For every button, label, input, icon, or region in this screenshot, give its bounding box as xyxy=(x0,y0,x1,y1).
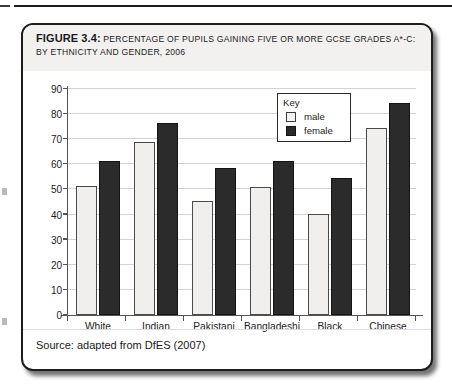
legend-swatch-male xyxy=(286,112,296,122)
bar-group: Pakistani xyxy=(192,89,236,315)
y-tick-label: 80 xyxy=(51,109,62,120)
x-tick-mark xyxy=(241,315,242,321)
legend-swatch-female xyxy=(286,126,296,136)
figure-box: FIGURE 3.4: Percentage of pupils gaining… xyxy=(21,23,433,371)
y-tick-label: 20 xyxy=(51,259,62,270)
chart-legend: Key malefemale xyxy=(277,93,351,142)
legend-item-female: female xyxy=(283,125,345,136)
bar-female-bangladeshi xyxy=(273,161,294,315)
x-tick-label: White xyxy=(85,321,111,332)
x-tick-mark xyxy=(299,315,300,321)
gridline xyxy=(68,88,416,89)
y-tick-mark xyxy=(63,163,68,164)
y-tick-mark xyxy=(63,188,68,189)
y-tick-mark xyxy=(63,238,68,239)
y-tick-mark xyxy=(63,264,68,265)
legend-label-female: female xyxy=(304,125,333,136)
y-tick-label: 90 xyxy=(51,84,62,95)
bar-group: Indian xyxy=(134,89,178,315)
x-tick-label: Chinese xyxy=(369,321,406,332)
x-tick-label: Indian xyxy=(142,321,170,332)
figure-number-label: FIGURE 3.4: xyxy=(36,32,101,44)
x-tick-label: Bangladeshi xyxy=(244,321,300,332)
legend-label-male: male xyxy=(304,111,325,122)
gridline xyxy=(68,163,416,164)
gridline xyxy=(68,264,416,265)
bar-group: White xyxy=(76,89,120,315)
gridline xyxy=(68,138,416,139)
y-tick-label: 60 xyxy=(51,159,62,170)
legend-item-male: male xyxy=(283,111,345,122)
margin-speck xyxy=(2,318,7,325)
bar-male-bangladeshi xyxy=(250,187,271,315)
x-tick-mark xyxy=(415,315,416,321)
y-axis-line xyxy=(67,86,68,315)
bar-male-pakistani xyxy=(192,201,213,315)
y-tick-label: 50 xyxy=(51,184,62,195)
x-tick-label: Pakistani xyxy=(193,321,234,332)
y-tick-mark xyxy=(63,138,68,139)
legend-title: Key xyxy=(283,97,345,108)
bar-group: Chinese xyxy=(366,89,410,315)
y-tick-label: 70 xyxy=(51,134,62,145)
bar-male-white xyxy=(76,186,97,315)
bar-male-chinese xyxy=(366,128,387,315)
legend-rows: malefemale xyxy=(283,111,345,136)
margin-speck xyxy=(2,188,7,195)
gridline xyxy=(68,113,416,114)
y-tick-label: 40 xyxy=(51,209,62,220)
figure-source: Source: adapted from DfES (2007) xyxy=(36,339,205,351)
bar-male-black xyxy=(308,214,329,315)
page-top-rule xyxy=(14,5,452,7)
bar-male-indian xyxy=(134,142,155,315)
x-tick-mark xyxy=(183,315,184,321)
figure-caption: FIGURE 3.4: Percentage of pupils gaining… xyxy=(36,32,419,60)
gridline xyxy=(68,214,416,215)
y-tick-mark xyxy=(63,289,68,290)
x-tick-mark xyxy=(357,315,358,321)
x-tick-mark xyxy=(125,315,126,321)
bar-female-indian xyxy=(157,123,178,315)
figure-caption-band: FIGURE 3.4: Percentage of pupils gaining… xyxy=(23,25,431,71)
source-divider xyxy=(23,329,431,330)
bar-female-chinese xyxy=(389,103,410,315)
bar-female-white xyxy=(99,161,120,315)
page-rule-stub xyxy=(0,5,10,7)
y-tick-label: 0 xyxy=(56,310,62,321)
gridline xyxy=(68,239,416,240)
y-tick-label: 10 xyxy=(51,284,62,295)
bar-female-black xyxy=(331,178,352,315)
x-tick-mark xyxy=(67,315,68,321)
x-tick-label: Black xyxy=(318,321,343,332)
bar-female-pakistani xyxy=(215,168,236,315)
gridline xyxy=(68,188,416,189)
chart-area: 0102030405060708090 WhiteIndianPakistani… xyxy=(23,71,431,329)
y-tick-mark xyxy=(63,113,68,114)
y-tick-mark xyxy=(63,88,68,89)
y-tick-label: 30 xyxy=(51,234,62,245)
y-tick-mark xyxy=(63,213,68,214)
gridline xyxy=(68,289,416,290)
plot-area: 0102030405060708090 WhiteIndianPakistani… xyxy=(68,89,416,315)
